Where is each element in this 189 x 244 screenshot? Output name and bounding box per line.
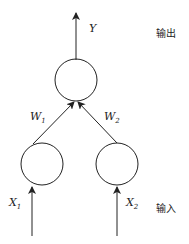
output-label: Y	[89, 22, 96, 35]
output-layer-label: 输出	[156, 25, 176, 40]
neural-network-diagram: Y 输出 W1 W2 X1 X2 输入	[0, 0, 189, 244]
input-neuron-2	[96, 143, 138, 185]
output-neuron	[55, 59, 97, 101]
weight-label-2: W2	[104, 110, 120, 125]
input-label-1: X1	[9, 196, 21, 211]
weight-label-1: W1	[30, 110, 46, 125]
input-layer-label: 输入	[156, 200, 176, 215]
input-neuron-1	[21, 143, 63, 185]
input-label-2: X2	[126, 196, 138, 211]
